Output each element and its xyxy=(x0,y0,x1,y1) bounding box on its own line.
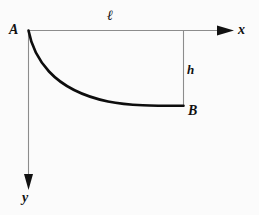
x-axis-label: x xyxy=(238,23,245,37)
length-label: ℓ xyxy=(107,9,113,23)
point-a-label: A xyxy=(9,23,18,37)
y-axis-label: y xyxy=(22,191,28,205)
diagram-svg xyxy=(0,0,259,215)
figure-canvas: A B x y h ℓ xyxy=(0,0,259,215)
height-label: h xyxy=(187,63,194,76)
point-b-label: B xyxy=(188,104,197,118)
